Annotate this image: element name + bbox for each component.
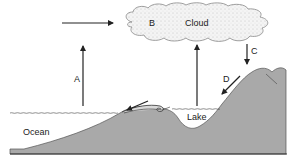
lake-water-surface xyxy=(172,109,220,110)
label-b: B xyxy=(149,19,155,28)
diagram-canvas xyxy=(0,0,294,166)
ground-landmass xyxy=(10,68,287,154)
label-d: D xyxy=(223,75,230,84)
water-cycle-diagram: B Cloud A C D Lake Ocean xyxy=(0,0,294,166)
label-a: A xyxy=(74,75,80,84)
label-c: C xyxy=(251,47,258,56)
ocean-water-surface xyxy=(10,113,118,114)
label-lake: Lake xyxy=(187,113,207,122)
label-ocean: Ocean xyxy=(23,128,50,137)
label-cloud: Cloud xyxy=(185,19,209,28)
